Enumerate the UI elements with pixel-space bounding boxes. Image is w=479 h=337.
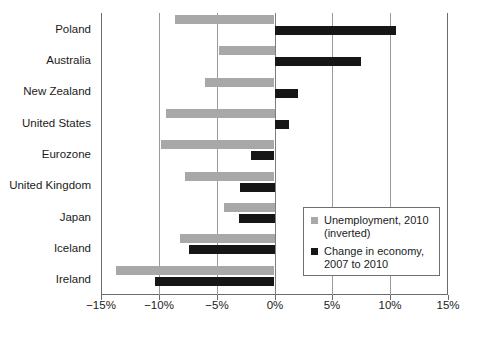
bar (251, 151, 274, 160)
x-axis-tick-label: 10% (378, 299, 401, 311)
category-label: United States (22, 117, 91, 129)
bar (240, 183, 275, 192)
bar (205, 78, 274, 87)
bar (175, 15, 274, 24)
category-axis-labels: PolandAustraliaNew ZealandUnited StatesE… (0, 13, 95, 295)
legend-swatch-icon (311, 248, 318, 255)
category-label: Australia (46, 54, 91, 66)
bar-row (101, 107, 448, 138)
x-axis-tick-label: −5% (205, 299, 228, 311)
bar-row (101, 170, 448, 201)
x-axis-tick-label: 5% (324, 299, 341, 311)
bar (224, 203, 275, 212)
x-axis-tick-label: −15% (86, 299, 116, 311)
bar-row (101, 13, 448, 44)
bar (275, 89, 298, 98)
bar-row (101, 76, 448, 107)
category-label: Japan (60, 211, 91, 223)
bar (239, 214, 275, 223)
bar (219, 46, 275, 55)
bar (189, 245, 275, 254)
category-label: Poland (55, 23, 91, 35)
bar (166, 109, 275, 118)
bar (275, 26, 396, 35)
legend-entry-unemployment: Unemployment, 2010 (inverted) (311, 214, 432, 240)
category-label: Ireland (56, 273, 91, 285)
x-axis-tick-label: 15% (436, 299, 459, 311)
bar (275, 120, 289, 129)
legend-label: Change in economy, 2007 to 2010 (324, 245, 424, 271)
bar (275, 57, 361, 66)
x-axis-tick-labels: −15%−10%−5%0%5%10%15% (101, 299, 448, 319)
x-axis-tick-label: −10% (144, 299, 174, 311)
category-label: New Zealand (23, 85, 91, 97)
legend-swatch-icon (311, 217, 318, 224)
chart-figure: PolandAustraliaNew ZealandUnited StatesE… (0, 0, 479, 337)
legend-label: Unemployment, 2010 (inverted) (324, 214, 429, 240)
bar (155, 277, 274, 286)
bar-row (101, 138, 448, 169)
bar (161, 140, 274, 149)
bar (116, 266, 274, 275)
legend-entry-change-in-economy: Change in economy, 2007 to 2010 (311, 245, 432, 271)
chart-legend: Unemployment, 2010 (inverted) Change in … (303, 207, 440, 276)
category-label: United Kingdom (9, 179, 91, 191)
category-label: Iceland (54, 242, 91, 254)
bar (180, 234, 275, 243)
bar (185, 172, 274, 181)
bar-row (101, 44, 448, 75)
x-axis-tick-label: 0% (267, 299, 284, 311)
category-label: Eurozone (42, 148, 91, 160)
